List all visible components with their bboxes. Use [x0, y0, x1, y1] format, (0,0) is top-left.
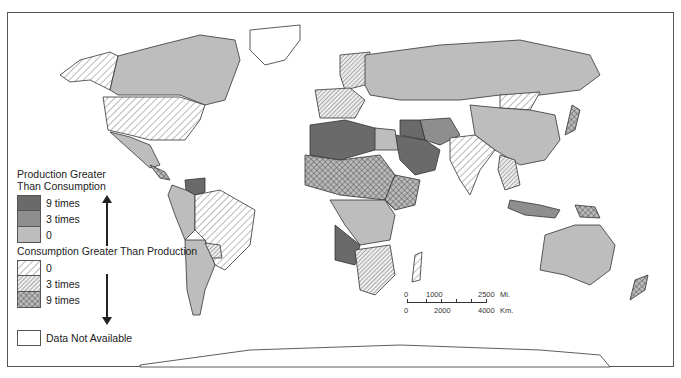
arrow-up-icon [106, 202, 108, 246]
region-mongolia [500, 92, 540, 110]
legend-production-title-2: Than Consumption [17, 180, 217, 192]
legend-item-prod-0: 0 [17, 227, 217, 243]
region-antarctica [140, 345, 610, 367]
map-legend: Production Greater Than Consumption 9 ti… [17, 168, 217, 308]
region-japan [565, 105, 580, 135]
scale-bar: 0 1000 2500 Mi. 0 2000 4000 Km. [404, 292, 524, 322]
legend-consumption-title: Consumption Greater Than Production [17, 245, 217, 257]
swatch-prod-3 [17, 211, 41, 227]
region-sahel [305, 155, 395, 200]
arrow-down-icon [106, 274, 108, 318]
region-canada [110, 35, 240, 105]
region-southern-africa [355, 245, 395, 295]
legend-item-prod-9: 9 times [17, 195, 217, 211]
swatch-prod-0 [17, 227, 41, 243]
region-png [575, 205, 600, 218]
legend-item-na: Data Not Available [17, 330, 132, 346]
swatch-cons-0 [17, 260, 41, 276]
legend-production-title-1: Production Greater [17, 168, 217, 180]
region-greenland [250, 25, 300, 65]
region-usa [103, 97, 205, 140]
region-madagascar [412, 252, 422, 282]
region-alaska [60, 52, 118, 90]
legend-item-cons-0: 0 [17, 260, 217, 276]
region-russia [365, 40, 600, 100]
scale-line [407, 302, 487, 303]
region-new-zealand [630, 275, 648, 300]
region-indonesia [508, 200, 560, 218]
region-australia [540, 225, 615, 285]
legend-item-cons-3: 3 times [17, 276, 217, 292]
swatch-prod-9 [17, 195, 41, 211]
swatch-cons-3 [17, 276, 41, 292]
legend-item-prod-3: 3 times [17, 211, 217, 227]
region-egypt [375, 128, 398, 150]
swatch-cons-9 [17, 292, 41, 308]
swatch-na [17, 330, 41, 346]
region-western-europe [315, 88, 365, 118]
legend-item-cons-9: 9 times [17, 292, 217, 308]
